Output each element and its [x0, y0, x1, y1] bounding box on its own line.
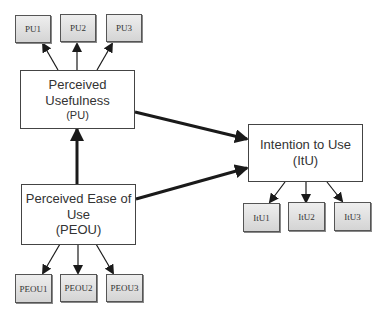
indicator-pu3: PU3 — [106, 14, 142, 42]
pu-title-line2: Usefulness — [45, 93, 109, 109]
arrow-peou-to-peou1 — [43, 244, 60, 273]
indicator-itu3: ItU3 — [334, 202, 371, 231]
pu-abbreviation: (PU) — [66, 109, 89, 122]
arrow-peou-to-itu — [136, 168, 247, 199]
arrow-peou-to-peou3 — [96, 244, 113, 273]
itu-abbreviation: (ItU) — [293, 153, 318, 169]
indicator-pu1: PU1 — [15, 15, 51, 43]
indicator-pu2: PU2 — [60, 14, 96, 42]
peou-title-line1: Perceived Ease of — [26, 191, 132, 207]
pu-title-line1: Perceived — [49, 77, 107, 93]
construct-perceived-usefulness: Perceived Usefulness (PU) — [20, 70, 135, 129]
indicator-itu1: ItU1 — [243, 203, 280, 232]
arrow-pu-to-pu3 — [97, 44, 112, 70]
itu-title-line1: Intention to Use — [260, 137, 351, 153]
arrow-itu-to-itu1 — [270, 182, 285, 202]
construct-intention-to-use: Intention to Use (ItU) — [248, 124, 363, 182]
peou-abbreviation: (PEOU) — [56, 222, 102, 238]
arrow-pu-to-pu1 — [43, 44, 58, 70]
peou-title-line2: Use — [67, 207, 90, 223]
indicator-itu2: ItU2 — [288, 202, 325, 231]
arrow-pu-to-itu — [135, 112, 247, 139]
construct-perceived-ease-of-use: Perceived Ease of Use (PEOU) — [21, 184, 136, 245]
arrow-itu-to-itu3 — [327, 182, 342, 201]
tam-diagram: PU1 PU2 PU3 Perceived Usefulness (PU) Pe… — [0, 0, 381, 317]
indicator-peou2: PEOU2 — [60, 274, 97, 302]
indicator-peou3: PEOU3 — [106, 274, 143, 302]
indicator-peou1: PEOU1 — [15, 274, 52, 303]
